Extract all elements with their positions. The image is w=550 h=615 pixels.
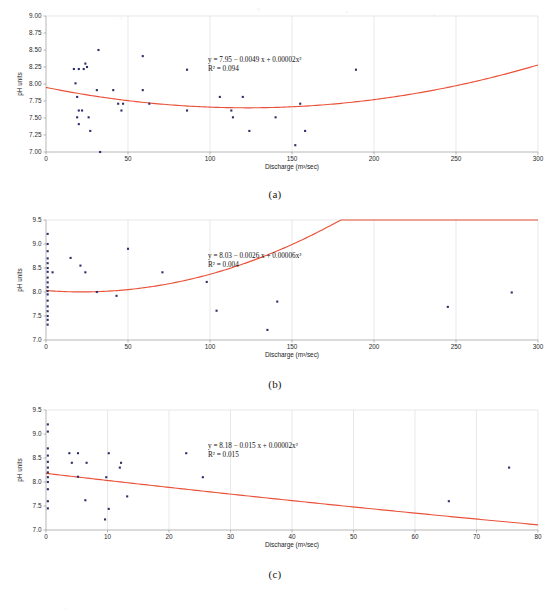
data-point — [266, 329, 268, 331]
data-point — [47, 467, 49, 469]
data-point — [52, 271, 54, 273]
y-tick-label: 8.00 — [29, 80, 42, 87]
r-squared-text: R² = 0.004 — [208, 261, 239, 269]
data-point — [206, 281, 208, 283]
x-tick-label: 50 — [124, 343, 132, 350]
data-point — [122, 103, 124, 105]
data-point — [47, 447, 49, 449]
data-point — [88, 116, 90, 118]
equation-text: y = 7.95 − 0.0049 x + 0.00002x² — [208, 56, 301, 64]
x-tick-label: 150 — [287, 343, 298, 350]
x-tick-label: 250 — [451, 155, 462, 162]
data-point — [294, 144, 296, 146]
equation-annotation: y = 8.03 − 0.0026 x + 0.00006x²R² = 0.00… — [208, 252, 301, 269]
data-point — [47, 305, 49, 307]
data-point — [70, 257, 72, 259]
data-point — [76, 96, 78, 98]
y-tick-label: 8.5 — [33, 454, 42, 461]
data-point — [47, 262, 49, 264]
data-point — [120, 109, 122, 111]
data-point — [78, 68, 80, 70]
data-point — [96, 291, 98, 293]
data-point — [119, 467, 121, 469]
data-point — [84, 499, 86, 501]
x-tick-label: 100 — [205, 155, 216, 162]
data-point — [230, 109, 232, 111]
data-point — [79, 265, 81, 267]
data-point — [117, 103, 119, 105]
r-squared-text: R² = 0.015 — [208, 451, 239, 459]
y-axis-title: pH units — [16, 458, 24, 481]
data-point — [142, 89, 144, 91]
y-tick-label: 9.0 — [33, 430, 42, 437]
x-tick-label: 0 — [44, 343, 48, 350]
data-point — [148, 103, 150, 105]
data-point — [47, 423, 49, 425]
y-tick-label: 8.0 — [33, 288, 42, 295]
data-point — [81, 109, 83, 111]
x-tick-label: 10 — [104, 533, 112, 540]
data-point — [97, 49, 99, 51]
panel-c: 7.07.58.08.59.09.501020304050607080pH un… — [0, 396, 550, 580]
data-point — [47, 243, 49, 245]
data-point — [47, 281, 49, 283]
x-axis-title: Discharge (m³/sec) — [265, 163, 319, 171]
y-tick-label: 9.5 — [33, 216, 42, 223]
data-point — [120, 462, 122, 464]
data-point — [47, 250, 49, 252]
data-point — [275, 116, 277, 118]
data-point — [84, 271, 86, 273]
x-tick-label: 100 — [205, 343, 216, 350]
data-point — [355, 69, 357, 71]
data-point — [74, 82, 76, 84]
data-point — [105, 476, 107, 478]
y-axis-title: pH units — [16, 72, 24, 95]
y-tick-label: 8.0 — [33, 478, 42, 485]
data-point — [202, 476, 204, 478]
x-tick-label: 250 — [451, 343, 462, 350]
x-tick-label: 300 — [533, 155, 544, 162]
data-point — [78, 123, 80, 125]
data-point — [77, 452, 79, 454]
data-point — [47, 315, 49, 317]
x-tick-label: 150 — [287, 155, 298, 162]
data-point — [185, 452, 187, 454]
data-point — [76, 116, 78, 118]
x-tick-label: 0 — [44, 155, 48, 162]
data-point — [47, 300, 49, 302]
data-point — [71, 462, 73, 464]
data-point — [47, 461, 49, 463]
data-point — [232, 116, 234, 118]
y-tick-label: 8.50 — [29, 46, 42, 53]
equation-text: y = 8.03 − 0.0026 x + 0.00006x² — [208, 252, 301, 260]
x-tick-label: 60 — [411, 533, 419, 540]
data-point — [47, 267, 49, 269]
data-point — [47, 290, 49, 292]
data-point — [304, 130, 306, 132]
y-tick-label: 7.0 — [33, 336, 42, 343]
x-tick-label: 50 — [124, 155, 132, 162]
y-tick-label: 7.25 — [29, 131, 42, 138]
figure-three-panel-scatter: 7.007.257.507.758.008.258.508.759.000501… — [0, 0, 550, 580]
y-tick-label: 7.00 — [29, 148, 42, 155]
data-point — [276, 301, 278, 303]
panel-b-plot: 7.07.58.08.59.09.5050100150200250300pH u… — [0, 206, 550, 378]
data-point — [115, 295, 117, 297]
data-point — [83, 68, 85, 70]
data-point — [216, 310, 218, 312]
data-point — [127, 248, 129, 250]
data-point — [511, 291, 513, 293]
data-point — [161, 271, 163, 273]
x-tick-label: 70 — [473, 533, 481, 540]
data-point — [248, 130, 250, 132]
x-tick-label: 30 — [227, 533, 235, 540]
panel-b-caption: (b) — [0, 378, 550, 390]
y-tick-label: 7.50 — [29, 114, 42, 121]
y-tick-label: 8.5 — [33, 264, 42, 271]
data-point — [47, 455, 49, 457]
panel-a-caption: (a) — [0, 188, 550, 200]
data-point — [47, 481, 49, 483]
y-tick-label: 7.0 — [33, 526, 42, 533]
x-tick-label: 40 — [288, 533, 296, 540]
y-tick-label: 9.0 — [33, 240, 42, 247]
